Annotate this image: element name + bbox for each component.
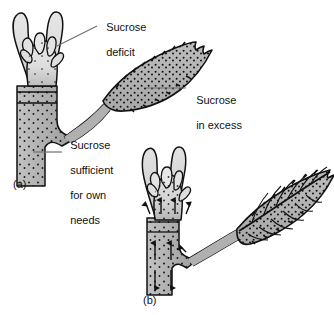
annotation-sucrose-in-excess-line-1: Sucrose — [196, 94, 236, 106]
bud-inflow-outer-right — [186, 204, 190, 214]
panel-label-a: (a) — [13, 178, 26, 190]
panel-label-b: (b) — [143, 294, 156, 306]
figure-canvas — [0, 0, 334, 315]
annotation-sucrose-sufficient: Sucrose sufficient for own needs — [64, 126, 113, 226]
panel-b — [142, 147, 334, 295]
annotation-sucrose-deficit: Sucrose deficit — [100, 8, 146, 58]
leaf-blade-panel-b — [237, 167, 334, 244]
sucrose-translocation-figure: Sucrose deficit Sucrose in excess Sucros… — [0, 0, 334, 315]
terminal-bud-panel-a — [13, 12, 63, 86]
annotation-sucrose-sufficient-line-4: needs — [70, 214, 100, 226]
annotation-sucrose-sufficient-line-2: sufficient — [70, 164, 113, 176]
terminal-bud-panel-b — [142, 147, 190, 220]
annotation-sucrose-deficit-line-2: deficit — [106, 46, 135, 58]
annotation-sucrose-deficit-line-1: Sucrose — [106, 21, 146, 33]
annotation-sucrose-sufficient-line-1: Sucrose — [70, 139, 110, 151]
annotation-sucrose-sufficient-line-3: for own — [70, 189, 106, 201]
annotation-sucrose-in-excess: Sucrose in excess — [190, 81, 242, 131]
annotation-sucrose-in-excess-line-2: in excess — [196, 119, 242, 131]
petiole-export-arrow — [181, 247, 186, 252]
stem-panel-b — [147, 218, 196, 295]
bud-inflow-outer-left — [146, 204, 150, 214]
